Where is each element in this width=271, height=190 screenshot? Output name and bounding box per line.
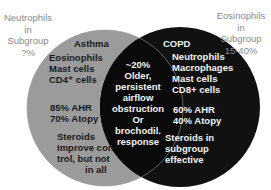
copd-title: COPD	[163, 38, 190, 49]
overlap-text: ~20%Older,persistentairflowobstructionOr…	[103, 59, 173, 147]
copd-stats: 60% AHR40% Atopy	[173, 104, 221, 126]
neutrophils-subgroup-label: NeutrophilsinSubgroup?%	[2, 12, 54, 58]
copd-steroids: Steroids insubgroupeffective	[165, 132, 214, 165]
copd-cells: NeutrophilsMacrophagesMast cellsCD8+ cel…	[172, 51, 233, 95]
asthma-stats: 85% AHR70% Atopy	[50, 102, 98, 124]
asthma-title: Asthma	[74, 38, 109, 49]
eosinophils-subgroup-label: EosinophilsinSubgroup15-40%	[214, 10, 268, 56]
asthma-cells: EosinophilsMast cellsCD4⁺ cells	[49, 52, 103, 85]
